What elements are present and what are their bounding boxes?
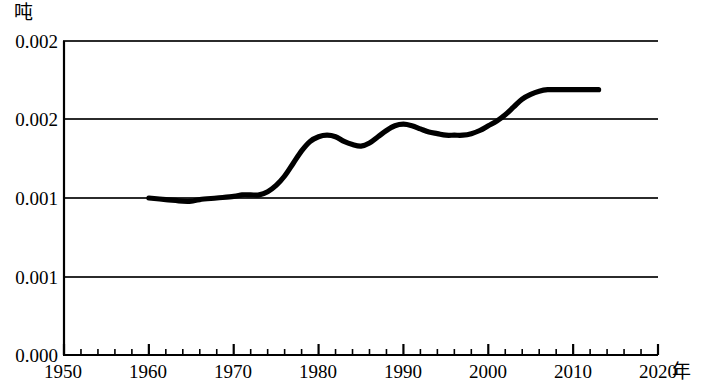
plot-area — [0, 0, 717, 392]
data-series-line — [149, 90, 599, 202]
x-axis-major-ticks — [64, 344, 658, 355]
gridlines — [63, 41, 658, 277]
line-chart: 吨 0.002 0.002 0.001 0.001 0.000 1950 196… — [0, 0, 717, 392]
